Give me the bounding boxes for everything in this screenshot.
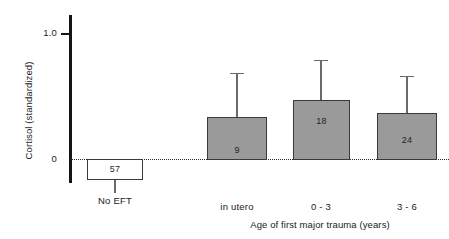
bar-0-3 xyxy=(293,100,350,160)
bar-count-in-utero: 9 xyxy=(207,145,267,155)
cortisol-bar-chart: 1.0 0 Cortisol (standardized) 57 No EFT … xyxy=(0,0,449,239)
category-label-3-6: 3 - 6 xyxy=(357,201,449,212)
y-axis-title: Cortisol (standardized) xyxy=(23,31,34,191)
bar-count-3-6: 24 xyxy=(377,135,437,145)
bar-count-0-3: 18 xyxy=(293,116,350,126)
y-tick-mark-1 xyxy=(61,33,69,35)
y-axis-line xyxy=(69,15,72,183)
error-bar-stem-0-3 xyxy=(320,60,321,105)
category-label-no-eft: No EFT xyxy=(65,195,165,206)
error-bar-stem-in-utero xyxy=(236,73,237,121)
bar-count-no-eft: 57 xyxy=(87,164,143,174)
category-label-0-3: 0 - 3 xyxy=(271,201,371,212)
x-axis-title: Age of first major trauma (years) xyxy=(210,219,430,230)
